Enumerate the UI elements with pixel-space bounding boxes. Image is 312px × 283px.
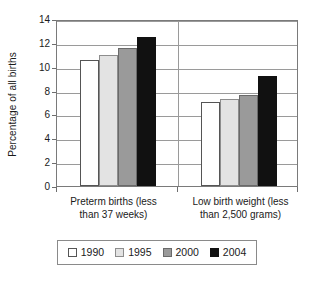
category-label-line: Low birth weight (less: [179, 195, 302, 208]
y-axis-title-text: Percentage of all births: [7, 52, 18, 157]
bar-2000-group-1: [118, 48, 137, 186]
bar-2000-group-2: [239, 95, 258, 186]
y-axis-tick-label: 6: [22, 110, 50, 120]
light-gray-square-icon: [115, 248, 124, 257]
gridline: [57, 21, 297, 22]
category-label-line: Preterm births (less: [52, 195, 175, 208]
x-axis-tick-mark: [177, 187, 178, 192]
y-axis-tick-label: 10: [22, 63, 50, 73]
bar-2004-group-2: [258, 76, 277, 186]
x-axis-tick-mark: [297, 187, 298, 192]
y-axis-tick-label: 2: [22, 158, 50, 168]
legend-item-label: 2000: [176, 247, 199, 258]
black-square-icon: [210, 248, 219, 257]
white-square-icon: [68, 248, 77, 257]
legend: 1990199520002004: [57, 240, 257, 265]
category-label-line: than 2,500 grams): [179, 208, 302, 221]
x-axis-ticks: [56, 187, 298, 192]
medium-gray-square-icon: [163, 248, 172, 257]
x-axis-category-labels: Preterm births (lessthan 37 weeks)Low bi…: [50, 195, 304, 235]
category-label-line: than 37 weeks): [52, 208, 175, 221]
group-separator: [178, 21, 179, 186]
y-axis-tick-label: 0: [22, 182, 50, 192]
y-axis-tick-label: 12: [22, 39, 50, 49]
y-axis-title: Percentage of all births: [4, 18, 20, 190]
y-axis-tick-label: 14: [22, 15, 50, 25]
bar-1995-group-2: [220, 99, 239, 186]
gridline: [57, 45, 297, 46]
bar-2004-group-1: [137, 37, 156, 186]
legend-item-1990[interactable]: 1990: [68, 247, 104, 258]
y-axis-tick-label: 8: [22, 87, 50, 97]
category-label-2: Low birth weight (lessthan 2,500 grams): [177, 195, 304, 235]
legend-item-2000[interactable]: 2000: [163, 247, 199, 258]
legend-item-label: 2004: [223, 247, 246, 258]
bar-1990-group-1: [80, 60, 99, 186]
bar-1995-group-1: [99, 55, 118, 186]
plot-area: [56, 20, 298, 187]
x-axis-tick-mark: [56, 187, 57, 192]
y-axis-ticks: 02468101214: [22, 14, 50, 192]
bar-1990-group-2: [201, 102, 220, 186]
category-label-1: Preterm births (lessthan 37 weeks): [50, 195, 177, 235]
legend-item-1995[interactable]: 1995: [115, 247, 151, 258]
y-axis-tick-label: 4: [22, 134, 50, 144]
legend-item-2004[interactable]: 2004: [210, 247, 246, 258]
legend-item-label: 1990: [81, 247, 104, 258]
bar-chart: Percentage of all births 02468101214 Pre…: [0, 0, 312, 283]
legend-item-label: 1995: [128, 247, 151, 258]
